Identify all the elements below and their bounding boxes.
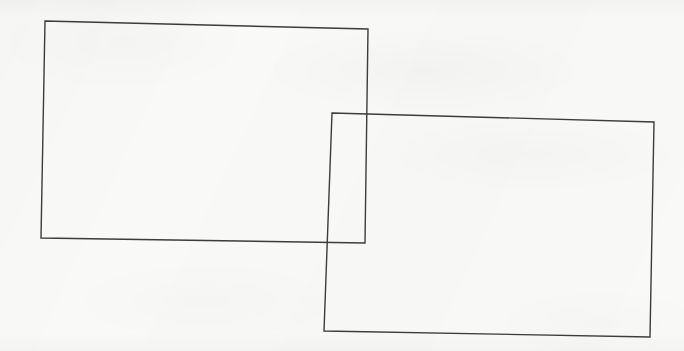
- shapes-svg: [0, 0, 684, 351]
- canvas-background: [0, 0, 684, 351]
- drawing-canvas: [0, 0, 684, 351]
